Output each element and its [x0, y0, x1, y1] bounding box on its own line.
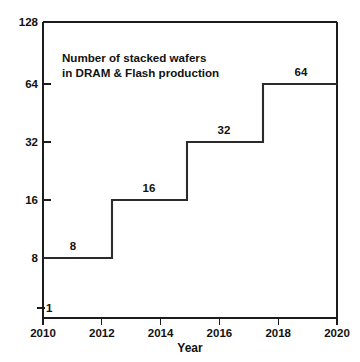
- x-axis-title: Year: [177, 341, 203, 355]
- data-label-8: 8: [70, 240, 77, 252]
- y-tick-label-32: 32: [25, 136, 38, 148]
- step-chart: 128 64 32 16 8 1 2010 2012 2014 2016 201…: [0, 0, 360, 362]
- x-tick-label-2012: 2012: [89, 327, 115, 339]
- y-tick-label-16: 16: [25, 194, 38, 206]
- annotation-line-2: in DRAM & Flash production: [62, 66, 219, 79]
- x-tick-label-2018: 2018: [265, 327, 291, 339]
- x-tick-label-2014: 2014: [148, 327, 174, 339]
- x-tick-label-2016: 2016: [207, 327, 233, 339]
- x-tick-label-2010: 2010: [30, 327, 56, 339]
- data-label-16: 16: [143, 182, 156, 194]
- y-tick-label-8: 8: [32, 252, 39, 264]
- y-tick-label-64: 64: [25, 78, 38, 90]
- chart-figure: 128 64 32 16 8 1 2010 2012 2014 2016 201…: [0, 0, 360, 362]
- y-tick-label-128: 128: [19, 16, 39, 28]
- x-tick-label-2020: 2020: [324, 327, 350, 339]
- data-label-64: 64: [295, 66, 308, 78]
- data-label-32: 32: [218, 124, 231, 136]
- y-tick-label-1: 1: [46, 302, 53, 314]
- annotation-line-1: Number of stacked wafers: [62, 51, 206, 64]
